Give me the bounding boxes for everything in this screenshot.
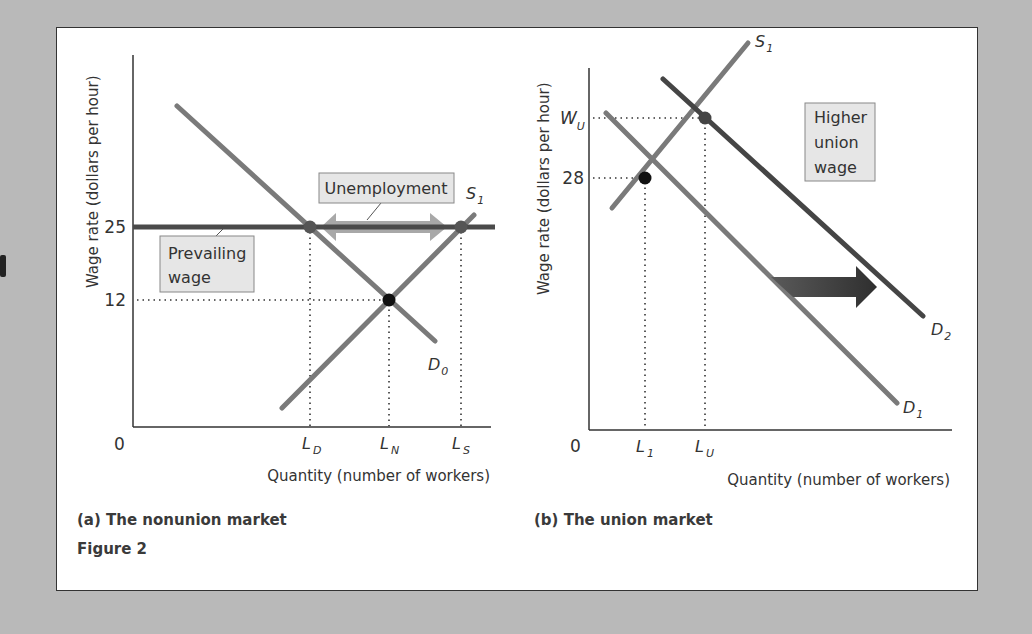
x-tick-LU: LU xyxy=(695,437,714,460)
panel-a-ylabel: Wage rate (dollars per hour) xyxy=(84,75,102,288)
panel-a-origin: 0 xyxy=(114,434,125,454)
x-tick-LS: LS xyxy=(452,434,470,457)
figure-2-diagram: Wage rate (dollars per hour) Unemploymen… xyxy=(0,0,1032,634)
panel-b-xlabel: Quantity (number of workers) xyxy=(727,471,950,489)
higher-union-wage-line1: Higher xyxy=(814,108,868,127)
higher-union-wage-line2: union xyxy=(814,133,859,152)
demand-shift-arrow xyxy=(771,266,877,308)
x-tick-LD: LD xyxy=(302,434,321,457)
panel-a-caption: (a) The nonunion market xyxy=(77,511,287,529)
prevailing-wage-label-line1: Prevailing xyxy=(168,244,246,263)
point-LU-WU xyxy=(699,112,712,125)
figure-title: Figure 2 xyxy=(77,540,147,558)
panel-a-xlabel: Quantity (number of workers) xyxy=(267,467,490,485)
unemployment-leader xyxy=(367,203,381,220)
higher-union-wage-line3: wage xyxy=(814,158,857,177)
point-L1-28 xyxy=(639,172,652,185)
panel-b-caption: (b) The union market xyxy=(534,511,713,529)
point-LD-25 xyxy=(304,221,317,234)
x-tick-LN: LN xyxy=(380,434,399,457)
panel-b-origin: 0 xyxy=(570,436,581,456)
y-tick-12: 12 xyxy=(104,290,126,310)
y-tick-WU: WU xyxy=(560,108,585,133)
point-equilibrium-LN-12 xyxy=(383,294,396,307)
panel-b-ylabel: Wage rate (dollars per hour) xyxy=(535,82,553,295)
prevailing-wage-leader xyxy=(216,229,223,236)
x-tick-L1: L1 xyxy=(636,437,654,460)
label-D2: D2 xyxy=(931,320,951,343)
y-tick-25: 25 xyxy=(104,217,126,237)
label-S1-a: S1 xyxy=(466,184,484,207)
panel-b: Wage rate (dollars per hour) Higher unio… xyxy=(535,32,952,489)
label-D1: D1 xyxy=(903,398,923,421)
panel-a: Wage rate (dollars per hour) Unemploymen… xyxy=(84,55,495,485)
y-tick-28: 28 xyxy=(562,168,584,188)
label-D0: D0 xyxy=(428,355,448,378)
point-LS-25 xyxy=(455,221,468,234)
unemployment-label: Unemployment xyxy=(325,179,448,198)
prevailing-wage-label-line2: wage xyxy=(168,268,211,287)
label-S1-b: S1 xyxy=(755,32,773,55)
